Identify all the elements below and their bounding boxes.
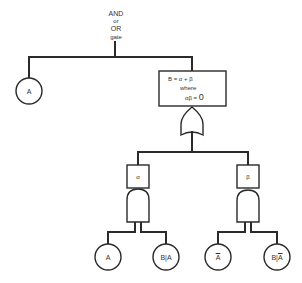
gate-header-line1: AND xyxy=(96,10,136,17)
label-top-left-a: A xyxy=(14,88,44,95)
condition-prefix: αβ = xyxy=(185,95,199,101)
alpha-input-1-line xyxy=(108,222,135,244)
fault-tree-diagram xyxy=(0,0,302,283)
top-event-condition: αβ = 0 xyxy=(185,93,225,102)
label-alpha-input-a: A xyxy=(93,254,123,261)
beta-input-1-line xyxy=(218,222,245,244)
or-gate xyxy=(181,107,203,135)
label-b-given-not-a: B|A xyxy=(262,254,292,261)
top-event-where: where xyxy=(180,85,220,91)
label-not-a: A xyxy=(203,254,233,261)
gate-header-line3: OR xyxy=(96,25,136,32)
gate-header-line4: gate xyxy=(96,34,136,40)
beta-input-2-line xyxy=(251,222,277,244)
label-alpha-input-b-given-a: B|A xyxy=(151,254,181,261)
label-beta: β xyxy=(233,174,263,180)
and-gate-alpha xyxy=(127,189,149,222)
and-gate-beta xyxy=(237,190,259,222)
label-alpha: α xyxy=(123,174,153,180)
condition-value: 0 xyxy=(199,92,204,102)
gate-header-line2: or xyxy=(96,18,136,24)
top-event-formula: B = α + β xyxy=(168,76,208,82)
not-a-text: A xyxy=(216,254,221,261)
not-a-suffix: A xyxy=(278,254,283,261)
alpha-input-2-line xyxy=(141,222,166,244)
